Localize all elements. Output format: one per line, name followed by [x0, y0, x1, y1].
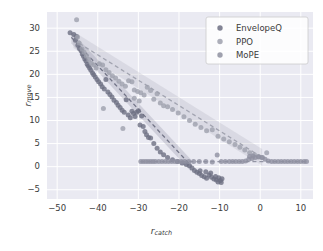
data-point	[208, 171, 213, 176]
y-tick-label: 30	[14, 23, 40, 33]
legend-label-mope: MoPE	[236, 50, 259, 60]
data-point	[247, 154, 252, 159]
data-point	[198, 168, 203, 173]
data-point	[101, 106, 106, 111]
x-axis-label-sub: catch	[154, 229, 172, 237]
data-point	[100, 63, 105, 68]
data-point	[151, 141, 156, 146]
x-tick-label: −10	[200, 203, 240, 213]
data-point	[124, 97, 129, 102]
data-point	[151, 97, 156, 102]
y-axis-label-base: r	[23, 103, 33, 107]
legend: EnvelopeQPPOMoPE	[206, 17, 308, 64]
data-point	[165, 104, 170, 109]
data-point	[75, 34, 80, 39]
data-point	[132, 96, 137, 101]
data-point	[165, 155, 170, 160]
data-point	[210, 127, 215, 132]
data-point	[203, 169, 208, 174]
legend-label-envelopeq: EnvelopeQ	[236, 23, 282, 33]
plot-canvas: EnvelopeQPPOMoPE	[0, 0, 323, 251]
scatter-chart-figure: EnvelopeQPPOMoPE rmove rcatch −50−40−30−…	[0, 0, 323, 251]
y-tick-label: 0	[14, 161, 40, 171]
data-point	[129, 79, 134, 84]
data-point	[203, 159, 208, 164]
x-tick-label: −20	[159, 203, 199, 213]
y-tick-label: 15	[14, 92, 40, 102]
y-tick-label: 20	[14, 69, 40, 79]
data-point	[191, 159, 196, 164]
data-point	[210, 160, 215, 165]
x-tick-label: −30	[118, 203, 158, 213]
x-tick-label: −50	[37, 203, 77, 213]
data-point	[128, 115, 133, 120]
data-point	[123, 84, 128, 89]
data-point	[148, 136, 153, 141]
x-tick-label: −40	[78, 203, 118, 213]
data-point	[137, 99, 142, 104]
data-point	[136, 108, 141, 113]
legend-marker-mope	[217, 52, 222, 57]
data-point	[170, 107, 175, 112]
data-point	[120, 126, 125, 131]
data-point	[94, 65, 99, 70]
data-point	[215, 153, 220, 158]
x-tick-label: 10	[281, 203, 321, 213]
y-tick-label: 25	[14, 46, 40, 56]
data-point	[237, 145, 242, 150]
data-point	[74, 17, 79, 22]
data-point	[264, 150, 269, 155]
data-point	[227, 139, 232, 144]
data-point	[221, 137, 226, 142]
data-point	[181, 114, 186, 119]
data-point	[141, 124, 146, 129]
data-point	[155, 91, 160, 96]
data-point	[242, 148, 247, 153]
y-tick-label: −5	[14, 184, 40, 194]
data-point	[197, 159, 202, 164]
data-point	[176, 111, 181, 116]
data-point	[233, 142, 238, 147]
data-point	[304, 159, 309, 164]
data-point	[142, 93, 147, 98]
data-point	[77, 40, 82, 45]
x-tick-label: 0	[240, 203, 280, 213]
x-axis-label: rcatch	[0, 226, 323, 237]
y-tick-label: 5	[14, 138, 40, 148]
y-tick-label: 10	[14, 115, 40, 125]
data-point	[193, 122, 198, 127]
data-point	[198, 125, 203, 130]
data-point	[204, 128, 209, 133]
data-point	[103, 77, 108, 82]
data-point	[219, 180, 224, 185]
data-point	[186, 159, 191, 164]
data-point	[216, 134, 221, 139]
legend-marker-envelopeq	[217, 25, 222, 30]
data-point	[213, 174, 218, 179]
data-point	[187, 118, 192, 123]
legend-label-ppo: PPO	[236, 37, 253, 47]
data-point	[139, 113, 144, 118]
legend-marker-ppo	[217, 39, 222, 44]
data-point	[148, 88, 153, 93]
